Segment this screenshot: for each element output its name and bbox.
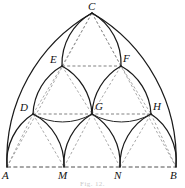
level3-arch bbox=[62, 13, 121, 66]
arch-D-G-apex-E-left bbox=[33, 66, 62, 114]
chord-E-C bbox=[62, 13, 92, 66]
arch-figure: C E F D G H A M N B Fig. 12. bbox=[0, 0, 185, 188]
chord-E-G bbox=[62, 66, 92, 114]
inner-secondary-arcs bbox=[33, 114, 151, 122]
vertex-label-F: F bbox=[123, 53, 130, 64]
level1-arches bbox=[7, 114, 177, 167]
chord-F-H bbox=[121, 66, 151, 114]
outer-arches bbox=[7, 13, 176, 167]
vertex-label-G: G bbox=[95, 101, 103, 112]
chord-D-E bbox=[33, 66, 62, 114]
level2-arches bbox=[33, 66, 151, 114]
figure-caption: Fig. 12. bbox=[0, 180, 185, 188]
vertex-label-C: C bbox=[88, 1, 95, 12]
vertex-label-D: D bbox=[20, 102, 28, 113]
arch-figure-svg bbox=[0, 0, 185, 188]
vertex-label-E: E bbox=[50, 54, 57, 65]
construction-chords bbox=[7, 13, 176, 167]
vertex-label-H: H bbox=[153, 101, 161, 112]
